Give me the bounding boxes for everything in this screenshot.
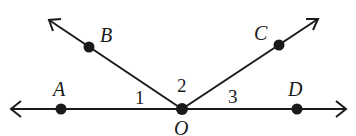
point-a bbox=[56, 104, 67, 115]
label-b: B bbox=[100, 24, 112, 46]
point-d bbox=[292, 104, 303, 115]
label-o: O bbox=[174, 117, 188, 136]
label-c: C bbox=[254, 22, 268, 44]
ray-oc-arrowhead-icon bbox=[306, 19, 318, 30]
angle-label-2: 2 bbox=[177, 75, 187, 96]
label-d: D bbox=[287, 78, 303, 100]
ray-ob bbox=[49, 19, 182, 109]
point-c bbox=[274, 40, 285, 51]
point-o bbox=[176, 103, 188, 115]
angle-label-3: 3 bbox=[228, 86, 238, 107]
label-a: A bbox=[51, 78, 66, 100]
angle-label-1: 1 bbox=[135, 87, 145, 108]
point-b bbox=[84, 42, 95, 53]
geometry-diagram: A B C D O 1 2 3 bbox=[0, 0, 356, 136]
diagram-svg: A B C D O 1 2 3 bbox=[0, 0, 356, 136]
